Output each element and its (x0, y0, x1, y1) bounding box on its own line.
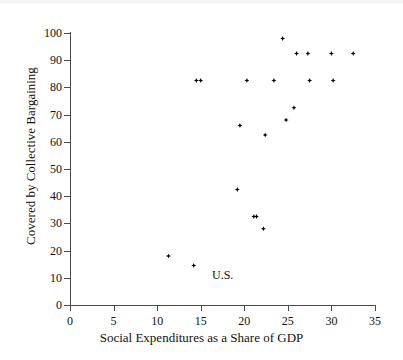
data-point-marker (351, 51, 356, 56)
data-point-marker (271, 78, 276, 83)
x-tick-mark (157, 305, 158, 311)
y-tick-label: 60 (36, 136, 62, 148)
y-tick-label: 50 (36, 163, 62, 175)
x-tick-mark (288, 305, 289, 311)
x-tick-label: 20 (229, 315, 259, 327)
data-point-marker (237, 123, 242, 128)
data-point-marker (166, 254, 171, 259)
x-axis-line (69, 305, 376, 306)
x-tick-mark (331, 305, 332, 311)
x-tick-mark (70, 305, 71, 311)
data-point-marker (305, 51, 310, 56)
y-tick-label: 80 (36, 81, 62, 93)
y-tick-label: 90 (36, 54, 62, 66)
data-point-marker (194, 78, 199, 83)
scatter-plot-figure: 0102030405060708090100 05101520253035 U.… (0, 0, 403, 360)
x-tick-mark (201, 305, 202, 311)
data-point-marker (307, 78, 312, 83)
y-tick-label: 70 (36, 109, 62, 121)
x-tick-label: 30 (316, 315, 346, 327)
x-tick-label: 15 (186, 315, 216, 327)
data-point-marker (263, 133, 268, 138)
y-tick-label: 0 (36, 299, 62, 311)
y-tick-label: 40 (36, 190, 62, 202)
x-tick-mark (114, 305, 115, 311)
data-point-marker (198, 78, 203, 83)
y-tick-label: 30 (36, 217, 62, 229)
y-tick-label: 100 (36, 27, 62, 39)
data-point-marker (284, 118, 289, 123)
x-tick-label: 10 (142, 315, 172, 327)
figure-top-border (0, 0, 403, 3)
y-tick-label: 20 (36, 245, 62, 257)
x-axis-title: Social Expenditures as a Share of GDP (0, 330, 403, 346)
x-tick-mark (375, 305, 376, 311)
y-tick-label: 10 (36, 272, 62, 284)
data-point-marker (261, 226, 266, 231)
data-point-marker (235, 187, 240, 192)
data-point-marker (331, 78, 336, 83)
x-tick-label: 0 (55, 315, 85, 327)
annotation-us-label: U.S. (212, 268, 233, 283)
data-point-marker (280, 36, 285, 41)
data-point-marker (244, 78, 249, 83)
x-tick-mark (244, 305, 245, 311)
data-point-marker (254, 214, 259, 219)
data-point-marker (291, 105, 296, 110)
x-tick-label: 35 (360, 315, 390, 327)
x-tick-label: 25 (273, 315, 303, 327)
data-point-marker (294, 51, 299, 56)
data-point-marker (329, 51, 334, 56)
x-tick-label: 5 (99, 315, 129, 327)
data-point-marker (191, 263, 196, 268)
plot-area (70, 33, 375, 305)
y-axis-title: Covered by Collective Bargaining (23, 41, 39, 271)
